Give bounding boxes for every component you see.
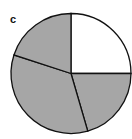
pie-chart bbox=[0, 0, 132, 139]
pie-slice-0 bbox=[71, 14, 131, 74]
